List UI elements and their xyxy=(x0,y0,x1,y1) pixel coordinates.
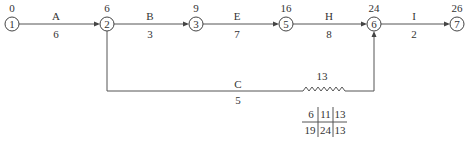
activity-I-duration: 2 xyxy=(411,28,417,40)
activity-H-duration: 8 xyxy=(326,28,332,40)
network-diagram: 1 0 2 6 3 9 5 16 6 24 7 26 A 6 B 3 E 7 H… xyxy=(0,0,472,143)
svg-text:11: 11 xyxy=(320,108,331,120)
node-6: 6 24 xyxy=(367,2,381,31)
activity-C-name: C xyxy=(234,78,241,90)
activity-C-duration: 5 xyxy=(235,94,241,106)
svg-text:1: 1 xyxy=(9,18,15,30)
activity-A-duration: 6 xyxy=(53,28,59,40)
node-7: 7 26 xyxy=(450,2,464,31)
svg-text:6: 6 xyxy=(371,18,377,30)
activity-E-name: E xyxy=(234,10,241,22)
node-time: 24 xyxy=(369,2,381,14)
activity-E-duration: 7 xyxy=(234,28,240,40)
svg-text:5: 5 xyxy=(283,18,289,30)
svg-text:6: 6 xyxy=(308,108,314,120)
node-time: 16 xyxy=(281,2,293,14)
svg-text:13: 13 xyxy=(335,124,347,136)
node-3: 3 9 xyxy=(189,2,203,31)
time-parameter-table: 6 11 13 19 24 13 xyxy=(302,107,347,137)
float-wave xyxy=(303,87,345,91)
svg-text:24: 24 xyxy=(320,124,332,136)
svg-text:19: 19 xyxy=(305,124,317,136)
svg-text:3: 3 xyxy=(193,18,199,30)
svg-text:2: 2 xyxy=(104,18,110,30)
node-2: 2 6 xyxy=(100,2,114,31)
activity-A-name: A xyxy=(52,10,60,22)
node-time: 6 xyxy=(104,2,110,14)
arrow-I xyxy=(381,22,450,27)
node-time: 26 xyxy=(452,2,464,14)
arrow-E xyxy=(203,22,279,27)
arrow-H xyxy=(293,22,367,27)
activity-H-name: H xyxy=(325,10,333,22)
activity-B-duration: 3 xyxy=(147,28,153,40)
svg-text:13: 13 xyxy=(335,108,347,120)
node-time: 0 xyxy=(9,2,15,14)
activity-C-float: 13 xyxy=(317,70,329,82)
arrow-C xyxy=(107,31,377,91)
arrow-B xyxy=(114,22,189,27)
svg-text:7: 7 xyxy=(454,18,460,30)
arrow-A xyxy=(19,22,100,27)
node-1: 1 0 xyxy=(5,2,19,31)
node-5: 5 16 xyxy=(279,2,293,31)
node-time: 9 xyxy=(193,2,199,14)
activity-B-name: B xyxy=(146,10,153,22)
activity-I-name: I xyxy=(412,10,416,22)
